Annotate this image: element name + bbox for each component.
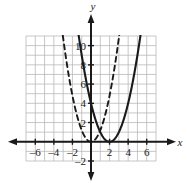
x-axis-label: x: [177, 136, 183, 148]
x-axis-arrow-left: [8, 138, 17, 145]
y-axis-arrow-up: [88, 14, 95, 23]
x-axis-arrow-right: [167, 138, 176, 145]
x-tick-label: 2: [107, 146, 113, 158]
y-tick-label: 4: [81, 97, 87, 109]
y-tick-label: 2: [81, 117, 87, 129]
x-tick-label: 6: [144, 146, 150, 158]
x-tick-label: 4: [125, 146, 131, 158]
coordinate-plane-svg: –6–4–2246–2246810xy: [0, 0, 187, 185]
y-axis-arrow-down: [88, 172, 95, 181]
x-tick-label: –6: [29, 146, 42, 158]
y-axis-label: y: [90, 0, 96, 12]
x-tick-label: –4: [47, 146, 60, 158]
y-tick-label: 6: [81, 78, 87, 90]
y-tick-label: 10: [75, 40, 87, 52]
y-tick-label: 8: [81, 59, 87, 71]
graph-figure: –6–4–2246–2246810xy: [0, 0, 187, 185]
y-tick-label: –2: [74, 155, 86, 167]
